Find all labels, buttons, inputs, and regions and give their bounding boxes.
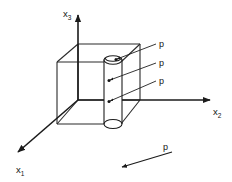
axis-label-x2-sub: 2 (218, 112, 222, 119)
pressure-label-2: p (159, 58, 164, 68)
cube-edge-connect-top-left (57, 44, 78, 62)
axis-label-x1-sub: 1 (21, 170, 25, 177)
axis-label-x3: x3 (63, 8, 72, 21)
leader-line-1 (117, 44, 156, 59)
leader-point-2 (108, 79, 111, 82)
pressure-direction-arrow (122, 152, 172, 167)
pressure-direction-label: p (163, 142, 168, 152)
direction-arrow-line (122, 152, 172, 167)
axis-label-x2: x2 (213, 106, 222, 119)
axis-label-x1: x1 (16, 164, 25, 177)
cube-wireframe (57, 44, 140, 124)
cube-edge-connect-bottom-right (121, 100, 140, 124)
axis-x1-line (18, 100, 78, 152)
cylinder-shape (104, 56, 122, 129)
figure-canvas: x3 x2 x1 p p p p (0, 0, 232, 182)
pressure-label-3: p (159, 76, 164, 86)
pressure-label-1: p (159, 39, 164, 49)
leader-point-3 (108, 100, 111, 103)
leader-point-1 (115, 58, 118, 61)
technical-diagram: x3 x2 x1 p p p p (0, 0, 232, 182)
cube-edge-connect-top-right (121, 44, 140, 62)
axis-label-x3-sub: 3 (68, 14, 72, 21)
cylinder-body (104, 60, 122, 129)
